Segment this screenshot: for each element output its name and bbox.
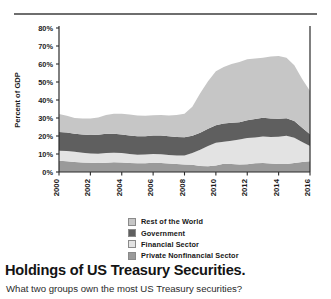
chart-canvas: 0%10%20%30%40%50%60%70%80%20002002200420…: [0, 20, 331, 215]
y-tick-label: 60%: [38, 60, 53, 69]
top-divider-rule: [14, 13, 317, 15]
x-tick-label: 2010: [209, 178, 218, 196]
legend-label-financial-sector: Financial Sector: [141, 240, 199, 249]
x-tick-label: 2006: [146, 178, 155, 196]
legend-label-private-nonfinancial-sector: Private Nonfinancial Sector: [141, 251, 239, 260]
chart-legend: Rest of the World Government Financial S…: [128, 216, 308, 262]
legend-swatch-rest-of-the-world: [128, 218, 136, 226]
y-tick-label: 0%: [42, 168, 53, 177]
legend-item-rest-of-the-world[interactable]: Rest of the World: [128, 216, 308, 227]
figure-page: 0%10%20%30%40%50%60%70%80%20002002200420…: [0, 0, 331, 299]
legend-item-financial-sector[interactable]: Financial Sector: [128, 239, 308, 250]
x-tick-label: 2002: [83, 178, 92, 196]
legend-item-private-nonfinancial-sector[interactable]: Private Nonfinancial Sector: [128, 250, 308, 261]
legend-item-government[interactable]: Government: [128, 227, 308, 238]
legend-label-rest-of-the-world: Rest of the World: [141, 217, 203, 226]
legend-swatch-government: [128, 229, 136, 237]
caption-subtitle: What two groups own the most US Treasury…: [6, 283, 242, 294]
y-tick-label: 80%: [38, 24, 53, 33]
caption-title: Holdings of US Treasury Securities.: [5, 262, 245, 278]
x-tick-label: 2000: [52, 178, 61, 196]
y-tick-label: 30%: [38, 114, 53, 123]
legend-swatch-private-nonfinancial-sector: [128, 252, 136, 260]
y-tick-label: 40%: [38, 96, 53, 105]
y-tick-label: 10%: [38, 150, 53, 159]
x-tick-label: 2008: [178, 178, 187, 196]
x-tick-label: 2004: [115, 178, 124, 196]
y-axis-title: Percent of GDP: [13, 72, 22, 128]
stacked-area-chart: 0%10%20%30%40%50%60%70%80%20002002200420…: [0, 20, 331, 215]
x-tick-label: 2012: [240, 178, 249, 196]
y-tick-label: 50%: [38, 78, 53, 87]
legend-label-government: Government: [141, 229, 185, 238]
legend-swatch-financial-sector: [128, 240, 136, 248]
x-tick-label: 2016: [303, 178, 312, 196]
y-tick-label: 70%: [38, 42, 53, 51]
x-tick-label: 2014: [272, 178, 281, 196]
y-tick-label: 20%: [38, 132, 53, 141]
